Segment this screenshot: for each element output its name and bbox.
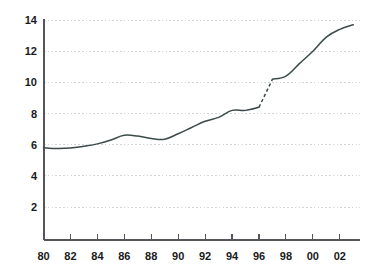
- x-tick-label-90: 90: [172, 250, 184, 262]
- x-tick-label-92: 92: [199, 250, 211, 262]
- y-tick-label-12: 12: [25, 45, 37, 57]
- x-tick-label-84: 84: [91, 250, 104, 262]
- y-tick-label-10: 10: [25, 76, 37, 88]
- y-tick-label-2: 2: [31, 201, 37, 213]
- line-chart: 14 12 10 8 6 4 2 80 82 84 86 8: [0, 0, 377, 274]
- x-tick-label-82: 82: [64, 250, 76, 262]
- data-series-group: [44, 25, 354, 149]
- y-tick-label-4: 4: [31, 170, 38, 182]
- data-line-segment-break: [259, 79, 272, 107]
- x-tick-label-80: 80: [37, 250, 49, 262]
- chart-canvas: 14 12 10 8 6 4 2 80 82 84 86 8: [0, 0, 377, 274]
- x-tick-label-02: 02: [334, 250, 346, 262]
- x-axis: 80 82 84 86 88 90 92 94 96 98 00 02: [37, 234, 360, 262]
- x-tick-label-94: 94: [226, 250, 239, 262]
- y-tick-label-8: 8: [31, 108, 37, 120]
- x-tick-label-00: 00: [307, 250, 319, 262]
- x-tick-label-96: 96: [253, 250, 265, 262]
- y-axis: 14 12 10 8 6 4 2: [25, 14, 44, 240]
- x-tick-label-86: 86: [118, 250, 130, 262]
- y-tick-label-6: 6: [31, 139, 37, 151]
- y-tick-label-14: 14: [25, 14, 38, 26]
- x-tick-label-98: 98: [280, 250, 292, 262]
- gridlines: [44, 20, 360, 207]
- x-tick-label-88: 88: [145, 250, 157, 262]
- data-line-segment-late: [272, 25, 353, 80]
